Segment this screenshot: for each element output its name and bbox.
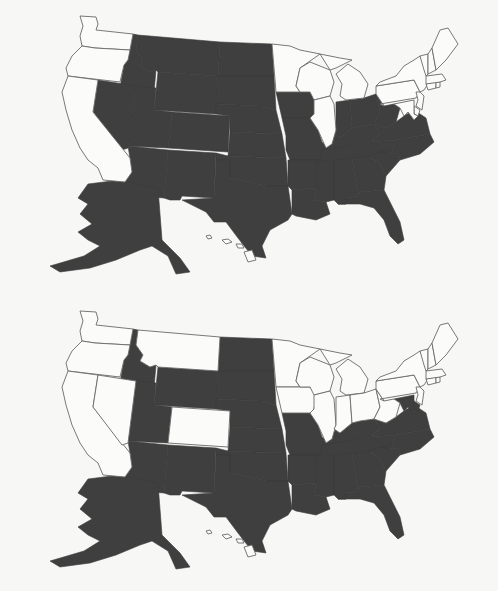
state-ms — [314, 455, 334, 497]
state-wa — [80, 311, 133, 345]
state-fl — [338, 485, 404, 539]
state-ia — [276, 92, 316, 118]
state-co — [168, 407, 230, 447]
state-fl — [338, 190, 404, 244]
state-ma — [426, 74, 446, 84]
state-wy — [154, 367, 218, 409]
state-ms — [314, 160, 334, 202]
state-nm — [164, 445, 216, 495]
state-wy — [154, 72, 218, 114]
state-ks — [228, 427, 286, 453]
state-mt — [136, 330, 220, 371]
state-nj — [416, 92, 424, 110]
state-nd — [218, 42, 274, 76]
state-me — [432, 28, 458, 70]
state-nd — [218, 337, 274, 371]
state-nm — [164, 150, 216, 200]
us-map-bottom-svg — [0, 290, 498, 591]
state-mt — [136, 35, 220, 76]
state-me — [432, 323, 458, 365]
state-ks — [228, 132, 286, 158]
state-ma — [426, 369, 446, 379]
us-map-bottom — [0, 290, 498, 591]
state-co — [168, 112, 230, 152]
state-ia — [276, 387, 316, 413]
state-nj — [416, 387, 424, 405]
us-map-top-svg — [0, 0, 498, 290]
us-map-top — [0, 0, 498, 290]
state-wa — [80, 16, 133, 50]
